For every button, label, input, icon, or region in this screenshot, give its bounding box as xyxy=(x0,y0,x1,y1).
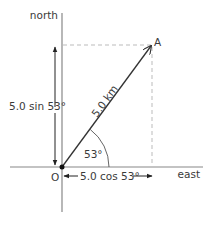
vertical-component-label: 5.0 sin 53° xyxy=(9,100,66,112)
east-axis-label: east xyxy=(178,168,200,180)
vector-diagram: north east O A 5.0 km 53° 5.0 sin 53° 5.… xyxy=(0,0,207,226)
origin-label: O xyxy=(51,171,59,183)
vector-magnitude-label: 5.0 km xyxy=(89,83,120,119)
origin-point xyxy=(60,165,65,170)
horizontal-component-label: 5.0 cos 53° xyxy=(80,170,140,182)
north-axis-label: north xyxy=(30,9,58,21)
point-a-label: A xyxy=(154,36,162,48)
angle-label: 53° xyxy=(84,148,103,160)
